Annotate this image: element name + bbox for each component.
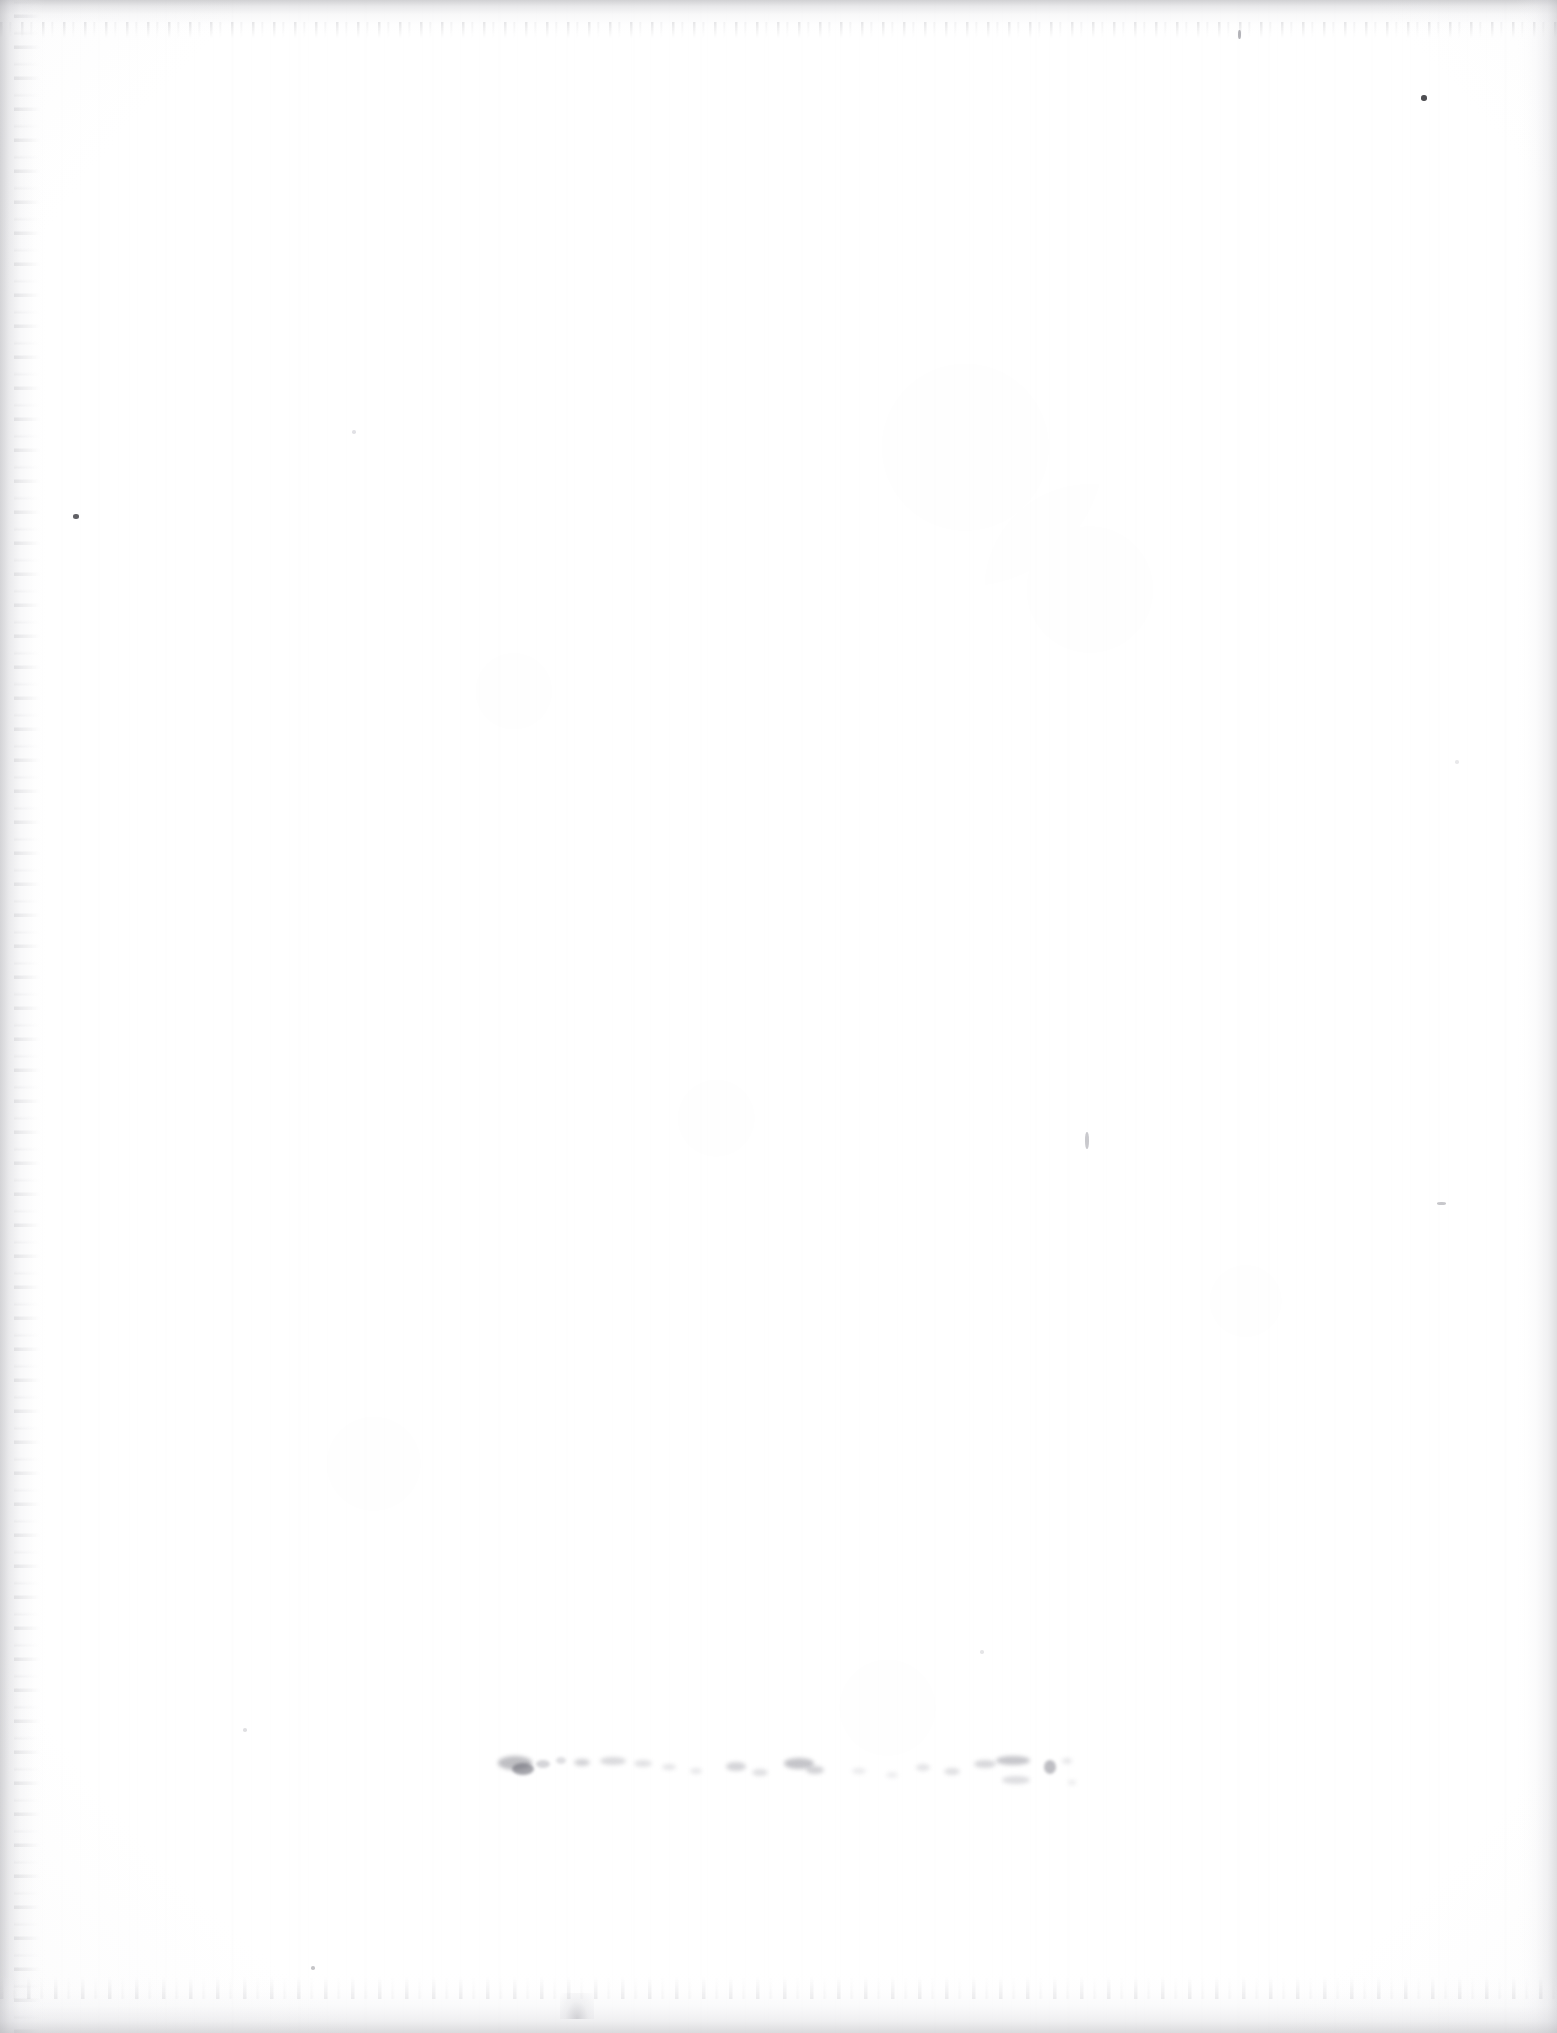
scanned-page [0,0,1557,2033]
paper-background [0,0,1557,2033]
